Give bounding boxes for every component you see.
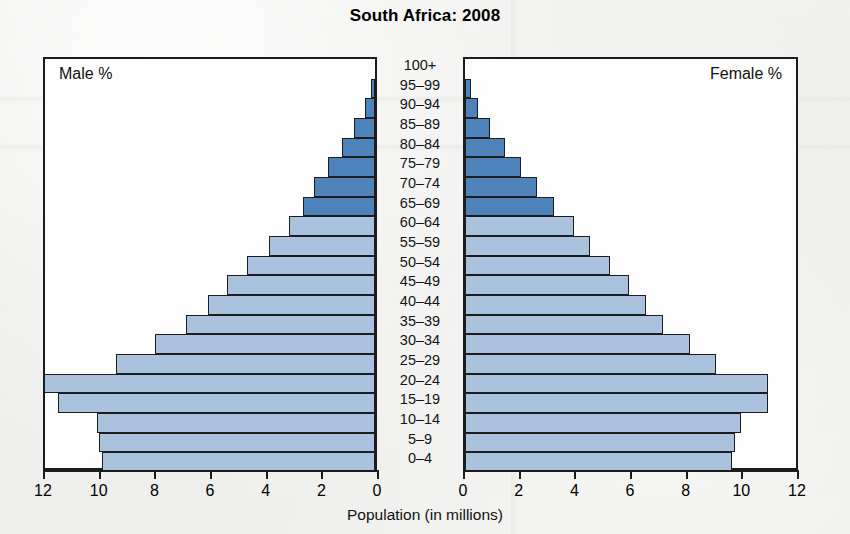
male-bar-65-69 bbox=[45, 197, 375, 217]
chart-title: South Africa: 2008 bbox=[0, 6, 850, 26]
bar-segment bbox=[371, 79, 375, 99]
male-bar-45-49 bbox=[45, 275, 375, 295]
female-tick-12 bbox=[797, 470, 799, 479]
female-tick-label-8: 8 bbox=[666, 482, 706, 500]
bar-segment bbox=[465, 256, 610, 276]
age-label-45-49: 45–49 bbox=[377, 272, 463, 292]
male-bar-20-24 bbox=[45, 374, 375, 394]
male-tick-label-6: 6 bbox=[190, 482, 230, 500]
male-bar-30-34 bbox=[45, 334, 375, 354]
male-bar-50-54 bbox=[45, 256, 375, 276]
age-group-axis: 100+95–9990–9485–8980–8475–7970–7465–696… bbox=[377, 57, 463, 470]
male-tick-label-8: 8 bbox=[134, 482, 174, 500]
female-bar-75-79 bbox=[465, 157, 796, 177]
male-tick-label-10: 10 bbox=[79, 482, 119, 500]
male-bar-5-9 bbox=[45, 433, 375, 453]
bar-segment bbox=[269, 236, 375, 256]
population-pyramid-chart: South Africa: 2008 Male % Female % 100+9… bbox=[0, 0, 850, 534]
bar-segment bbox=[303, 197, 375, 217]
bar-segment bbox=[342, 138, 375, 158]
female-bar-5-9 bbox=[465, 433, 796, 453]
bar-segment bbox=[465, 393, 768, 413]
age-label-15-19: 15–19 bbox=[377, 390, 463, 410]
female-bar-85-89 bbox=[465, 118, 796, 138]
bar-segment bbox=[116, 354, 375, 374]
bar-segment bbox=[465, 98, 478, 118]
male-bar-15-19 bbox=[45, 393, 375, 413]
age-label-65-69: 65–69 bbox=[377, 194, 463, 214]
female-bar-65-69 bbox=[465, 197, 796, 217]
bar-segment bbox=[58, 393, 375, 413]
female-bars bbox=[465, 59, 796, 468]
age-label-70-74: 70–74 bbox=[377, 174, 463, 194]
female-tick-label-6: 6 bbox=[610, 482, 650, 500]
female-panel: Female % bbox=[463, 57, 798, 470]
bar-segment bbox=[465, 236, 590, 256]
age-label-10-14: 10–14 bbox=[377, 410, 463, 430]
female-tick-label-10: 10 bbox=[721, 482, 761, 500]
age-label-95-99: 95–99 bbox=[377, 76, 463, 96]
female-bar-80-84 bbox=[465, 138, 796, 158]
male-tick-10 bbox=[99, 470, 101, 479]
x-axis-label: Population (in millions) bbox=[0, 506, 850, 524]
male-bar-95-99 bbox=[45, 79, 375, 99]
age-label-55-59: 55–59 bbox=[377, 233, 463, 253]
bar-segment bbox=[314, 177, 375, 197]
bar-segment bbox=[465, 374, 768, 394]
female-bar-20-24 bbox=[465, 374, 796, 394]
age-label-20-24: 20–24 bbox=[377, 371, 463, 391]
bar-segment bbox=[97, 413, 375, 433]
female-bar-35-39 bbox=[465, 315, 796, 335]
male-bars bbox=[45, 59, 375, 468]
female-bar-90-94 bbox=[465, 98, 796, 118]
female-tick-0 bbox=[463, 470, 465, 479]
male-bar-40-44 bbox=[45, 295, 375, 315]
male-tick-label-4: 4 bbox=[246, 482, 286, 500]
bar-segment bbox=[465, 315, 663, 335]
age-label-40-44: 40–44 bbox=[377, 292, 463, 312]
age-label-100+: 100+ bbox=[377, 56, 463, 76]
female-tick-label-12: 12 bbox=[777, 482, 817, 500]
age-label-50-54: 50–54 bbox=[377, 253, 463, 273]
bar-segment bbox=[465, 433, 735, 453]
bar-segment bbox=[465, 157, 521, 177]
male-tick-label-2: 2 bbox=[301, 482, 341, 500]
bar-segment bbox=[247, 256, 375, 276]
bar-segment bbox=[365, 98, 375, 118]
bar-segment bbox=[465, 334, 690, 354]
female-bar-70-74 bbox=[465, 177, 796, 197]
male-tick-6 bbox=[210, 470, 212, 479]
male-bar-55-59 bbox=[45, 236, 375, 256]
age-label-60-64: 60–64 bbox=[377, 213, 463, 233]
bar-segment bbox=[354, 118, 375, 138]
female-tick-label-0: 0 bbox=[443, 482, 483, 500]
age-label-80-84: 80–84 bbox=[377, 135, 463, 155]
male-bar-60-64 bbox=[45, 216, 375, 236]
female-bar-10-14 bbox=[465, 413, 796, 433]
bar-segment bbox=[289, 216, 375, 236]
age-label-35-39: 35–39 bbox=[377, 312, 463, 332]
male-bar-70-74 bbox=[45, 177, 375, 197]
bar-segment bbox=[227, 275, 375, 295]
male-bar-25-29 bbox=[45, 354, 375, 374]
male-bar-35-39 bbox=[45, 315, 375, 335]
female-bar-60-64 bbox=[465, 216, 796, 236]
bar-segment bbox=[155, 334, 375, 354]
female-tick-2 bbox=[519, 470, 521, 479]
female-tick-label-2: 2 bbox=[499, 482, 539, 500]
female-tick-10 bbox=[741, 470, 743, 479]
age-label-25-29: 25–29 bbox=[377, 351, 463, 371]
male-bar-10-14 bbox=[45, 413, 375, 433]
male-bar-90-94 bbox=[45, 98, 375, 118]
bar-segment bbox=[465, 79, 471, 99]
female-bar-95-99 bbox=[465, 79, 796, 99]
age-label-90-94: 90–94 bbox=[377, 95, 463, 115]
male-bar-85-89 bbox=[45, 118, 375, 138]
bar-segment bbox=[465, 177, 537, 197]
male-tick-label-0: 0 bbox=[357, 482, 397, 500]
male-bar-80-84 bbox=[45, 138, 375, 158]
age-label-85-89: 85–89 bbox=[377, 115, 463, 135]
bar-segment bbox=[99, 433, 375, 453]
male-bar-75-79 bbox=[45, 157, 375, 177]
bar-segment bbox=[328, 157, 375, 177]
